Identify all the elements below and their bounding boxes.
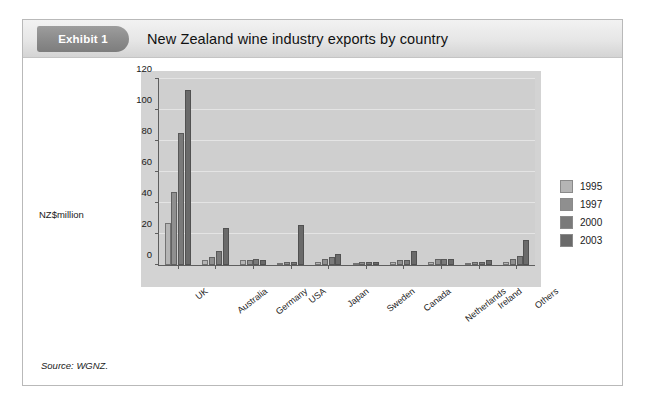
bar[interactable] (216, 251, 222, 265)
x-axis-label: USA (307, 286, 328, 305)
y-axis-tick-label: 120 (136, 63, 152, 74)
bars-layer (159, 79, 535, 265)
bar[interactable] (465, 263, 471, 265)
bar[interactable] (329, 257, 335, 265)
x-axis-label: Germany (273, 286, 308, 317)
x-axis-tick-mark (291, 265, 292, 269)
x-axis-tick-mark (441, 265, 442, 269)
bar[interactable] (435, 259, 441, 265)
bar[interactable] (171, 192, 177, 265)
x-axis-label: Canada (422, 286, 453, 313)
legend-swatch (560, 216, 573, 229)
bar[interactable] (240, 260, 246, 265)
bar[interactable] (315, 262, 321, 265)
bar[interactable] (223, 228, 229, 265)
bar[interactable] (523, 240, 529, 265)
bar-cluster (460, 79, 498, 265)
y-axis-tick-label: 20 (141, 218, 152, 229)
legend-swatch (560, 234, 573, 247)
x-axis-labels: UKAustraliaGermanyUSAJapanSwedenCanadaNe… (158, 286, 558, 346)
x-axis-tick-mark (366, 265, 367, 269)
bar[interactable] (397, 260, 403, 265)
bar[interactable] (441, 259, 447, 265)
x-axis-tick-mark (328, 265, 329, 269)
exhibit-title: New Zealand wine industry exports by cou… (147, 31, 448, 47)
x-axis-label: Australia (236, 286, 270, 315)
legend-swatch (560, 198, 573, 211)
bar[interactable] (260, 260, 266, 265)
x-axis-tick-mark (215, 265, 216, 269)
bar[interactable] (411, 251, 417, 265)
legend-label: 2000 (580, 217, 602, 228)
y-axis-title: NZ$million (39, 209, 84, 220)
bar-cluster (309, 79, 347, 265)
y-axis-tick-label: 60 (141, 156, 152, 167)
bar[interactable] (209, 257, 215, 265)
bar-cluster (385, 79, 423, 265)
bar[interactable] (284, 262, 290, 265)
bar-cluster (497, 79, 535, 265)
legend-label: 1995 (580, 181, 602, 192)
source-note: Source: WGNZ. (41, 360, 108, 371)
bar[interactable] (253, 259, 259, 265)
x-axis-label: Japan (345, 286, 370, 309)
legend-item[interactable]: 1995 (560, 177, 630, 195)
bar[interactable] (517, 256, 523, 265)
bar-cluster (347, 79, 385, 265)
x-axis-tick-mark (253, 265, 254, 269)
y-axis-tick-label: 0 (147, 249, 152, 260)
bar[interactable] (479, 262, 485, 265)
bar[interactable] (359, 262, 365, 265)
x-axis-tick-mark (178, 265, 179, 269)
bar[interactable] (472, 262, 478, 265)
bar[interactable] (503, 262, 509, 265)
exhibit-header: Exhibit 1 New Zealand wine industry expo… (23, 20, 622, 58)
bar[interactable] (202, 260, 208, 265)
legend-label: 2003 (580, 235, 602, 246)
bar[interactable] (185, 90, 191, 265)
legend-swatch (560, 180, 573, 193)
x-axis-label: Sweden (385, 286, 417, 314)
x-axis-label: Others (533, 286, 560, 311)
bar[interactable] (390, 262, 396, 265)
x-axis-tick-mark (403, 265, 404, 269)
bar[interactable] (486, 260, 492, 265)
exhibit-tag-badge: Exhibit 1 (37, 26, 129, 52)
x-axis-tick-mark (516, 265, 517, 269)
bar[interactable] (335, 254, 341, 265)
bar-cluster (234, 79, 272, 265)
bar[interactable] (428, 262, 434, 265)
bar-cluster (272, 79, 310, 265)
legend-item[interactable]: 2000 (560, 213, 630, 231)
bar[interactable] (247, 260, 253, 265)
chart-legend: 1995199720002003 (560, 177, 630, 249)
bar-cluster (197, 79, 235, 265)
bar[interactable] (298, 225, 304, 265)
bar-cluster (159, 79, 197, 265)
chart-region: NZ$million 020406080100120 UKAustraliaGe… (23, 59, 622, 349)
bar[interactable] (510, 259, 516, 265)
y-axis-tick-label: 40 (141, 187, 152, 198)
bar-cluster (422, 79, 460, 265)
x-axis-label: UK (193, 286, 209, 302)
legend-label: 1997 (580, 199, 602, 210)
bar[interactable] (366, 262, 372, 265)
y-axis-tick-label: 80 (141, 125, 152, 136)
bar[interactable] (373, 262, 379, 265)
bar[interactable] (322, 259, 328, 265)
bar[interactable] (165, 223, 171, 265)
bar[interactable] (448, 259, 454, 265)
plot-area: 020406080100120 (158, 79, 535, 266)
legend-item[interactable]: 1997 (560, 195, 630, 213)
plot-panel: 020406080100120 (141, 71, 541, 287)
bar[interactable] (404, 260, 410, 265)
exhibit-card: Exhibit 1 New Zealand wine industry expo… (22, 19, 623, 386)
bar[interactable] (353, 263, 359, 265)
x-axis-tick-mark (479, 265, 480, 269)
y-axis-tick-label: 100 (136, 94, 152, 105)
legend-item[interactable]: 2003 (560, 231, 630, 249)
bar[interactable] (291, 262, 297, 265)
bar[interactable] (277, 263, 283, 265)
bar[interactable] (178, 133, 184, 265)
